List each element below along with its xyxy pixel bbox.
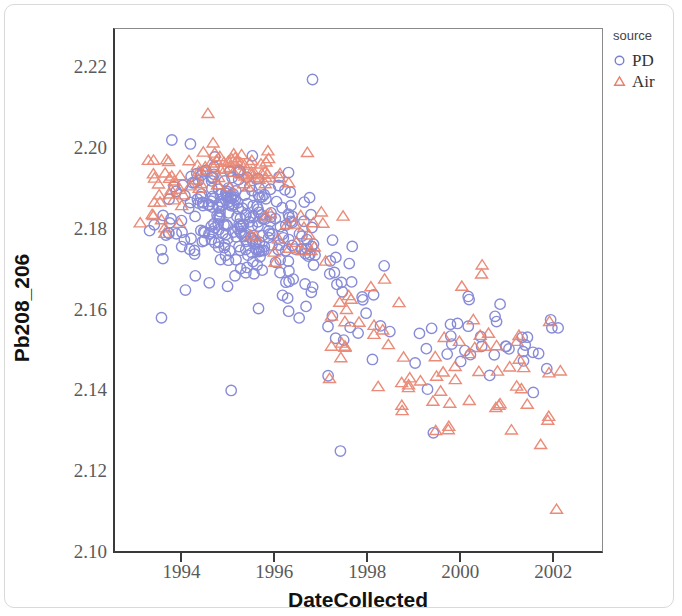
data-point-pd [347,241,357,251]
x-tick-mark [180,552,182,562]
data-point-pd [230,271,240,281]
x-tick-label: 2002 [534,561,572,583]
data-point-air [554,366,566,375]
data-point-pd [204,278,214,288]
data-point-air [476,269,488,278]
legend: source PDAir [612,28,678,92]
data-point-pd [489,350,499,360]
data-point-pd [344,258,354,268]
scatter-plot-figure: Pb208_206 2.102.122.142.162.182.202.22 1… [0,0,682,616]
data-point-pd [379,261,389,271]
data-point-pd [495,299,505,309]
x-tick-label: 1994 [162,561,200,583]
data-point-air [505,425,517,434]
data-point-pd [186,233,196,243]
data-point-air [197,147,209,156]
data-point-air [340,304,352,313]
data-point-pd [421,343,431,353]
x-tick-mark [552,552,554,562]
data-point-pd [185,139,195,149]
data-point-air [339,316,351,325]
data-point-air [429,351,441,360]
data-point-air [551,504,563,513]
series-air [134,108,566,513]
legend-row-air[interactable]: Air [612,71,678,92]
data-point-pd [528,387,538,397]
plot-area [113,28,603,553]
data-point-pd [156,313,166,323]
y-tick-label: 2.12 [74,460,107,482]
x-tick-label: 1998 [348,561,386,583]
data-point-air [456,281,468,290]
legend-title: source [612,28,678,43]
data-point-pd [323,321,333,331]
data-point-air [207,138,219,147]
y-tick-label: 2.16 [74,299,107,321]
data-point-air [521,399,533,408]
data-point-air [444,398,456,407]
data-point-air [427,396,439,405]
data-point-pd [426,323,436,333]
data-point-air [301,147,313,156]
data-point-pd [226,385,236,395]
x-tick-mark [273,552,275,562]
scatter-points-svg [115,29,602,551]
data-point-air [315,207,327,216]
x-axis-title: DateCollected [113,588,603,612]
data-point-pd [190,271,200,281]
y-tick-label: 2.20 [74,137,107,159]
y-axis-title: Pb208_206 [10,254,34,363]
legend-marker-air-icon [612,74,627,89]
data-point-air [449,374,461,383]
data-point-air [473,366,485,375]
data-point-air [398,352,410,361]
y-tick-label: 2.22 [74,56,107,78]
data-point-pd [301,301,311,311]
data-point-air [463,395,475,404]
legend-marker-pd-icon [612,53,627,68]
data-point-air [372,381,384,390]
legend-entries: PDAir [612,50,678,92]
data-point-air [183,155,195,164]
legend-label: Air [632,72,655,92]
data-point-pd [222,281,232,291]
data-point-air [393,297,405,306]
x-tick-label: 1996 [255,561,293,583]
data-point-pd [442,349,452,359]
x-tick-mark [366,552,368,562]
data-point-air [430,425,442,434]
data-point-pd [445,319,455,329]
legend-row-pd[interactable]: PD [612,50,678,71]
data-points-layer [115,29,602,551]
data-point-air [379,274,391,283]
data-point-air [491,366,503,375]
data-point-air [476,260,488,269]
data-point-pd [361,308,371,318]
data-point-pd [346,277,356,287]
legend-label: PD [632,51,654,71]
data-point-pd [414,328,424,338]
data-point-air [535,439,547,448]
data-point-pd [335,446,345,456]
y-tick-label: 2.14 [74,379,107,401]
data-point-air [134,218,146,227]
data-point-pd [294,313,304,323]
data-point-pd [253,303,263,313]
data-point-air [337,211,349,220]
data-point-pd [447,339,457,349]
data-point-pd [180,285,190,295]
data-point-air [467,314,479,323]
x-tick-label: 2000 [441,561,479,583]
data-point-air [414,376,426,385]
data-point-air [202,108,214,117]
y-tick-label: 2.18 [74,218,107,240]
y-tick-label: 2.10 [74,541,107,563]
data-point-pd [367,354,377,364]
data-point-pd [283,306,293,316]
data-point-air [435,386,447,395]
data-point-pd [167,135,177,145]
data-point-pd [308,260,318,270]
data-point-air [335,352,347,361]
data-point-air [382,339,394,348]
data-point-pd [410,358,420,368]
